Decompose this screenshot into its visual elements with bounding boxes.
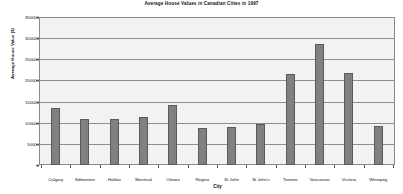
bar-slot bbox=[334, 17, 363, 165]
bar-slot bbox=[364, 17, 393, 165]
bar-slot bbox=[188, 17, 217, 165]
x-slot: Vancouver bbox=[305, 167, 334, 185]
x-axis-tick-label: Calgary bbox=[48, 177, 63, 182]
x-axis-tick-mark bbox=[334, 165, 335, 168]
y-axis-tick-label: 150000 bbox=[5, 99, 39, 104]
x-axis-tick-mark bbox=[246, 165, 247, 168]
x-slot: Regina bbox=[188, 167, 217, 185]
x-slot: Montreal bbox=[129, 167, 158, 185]
bar-slot bbox=[41, 17, 70, 165]
x-axis-tick-label: Winnipeg bbox=[369, 177, 387, 182]
y-axis-tick-mark bbox=[36, 165, 39, 166]
bar bbox=[80, 119, 89, 166]
bar-slot bbox=[100, 17, 129, 165]
bar-slot bbox=[217, 17, 246, 165]
x-axis-title: City bbox=[40, 184, 395, 189]
y-axis-tick-label: 200000 bbox=[5, 78, 39, 83]
y-axis-tick-label: 100000 bbox=[5, 120, 39, 125]
bar-chart: Average House Values in Canadian Cities … bbox=[0, 0, 403, 194]
x-axis-tick-mark bbox=[276, 165, 277, 168]
x-axis-tick-mark bbox=[217, 165, 218, 168]
x-axis-tick-label: Toronto bbox=[283, 177, 297, 182]
bar-slot bbox=[246, 17, 275, 165]
bar-slot bbox=[158, 17, 187, 165]
x-slot: Calgary bbox=[41, 167, 70, 185]
bar-slot bbox=[305, 17, 334, 165]
x-slot: St John bbox=[217, 167, 246, 185]
bar bbox=[256, 124, 265, 165]
x-axis-tick-label: St John's bbox=[252, 177, 270, 182]
x-axis-tick-mark bbox=[188, 165, 189, 168]
x-axis-tick-mark bbox=[129, 165, 130, 168]
bar-slot bbox=[276, 17, 305, 165]
bar bbox=[374, 126, 383, 165]
x-axis-tick-mark bbox=[70, 165, 71, 168]
x-slot: Halifax bbox=[100, 167, 129, 185]
x-slot: Winnipeg bbox=[364, 167, 393, 185]
bar bbox=[198, 128, 207, 165]
x-axis-tick-label: Halifax bbox=[108, 177, 121, 182]
bar bbox=[344, 73, 353, 165]
x-slot: Victoria bbox=[334, 167, 363, 185]
x-axis-tick-label: Montreal bbox=[135, 177, 152, 182]
x-axis-tick-mark bbox=[393, 165, 394, 168]
x-axis-tick-label: Vancouver bbox=[310, 177, 330, 182]
bar bbox=[286, 74, 295, 165]
x-axis-tick-mark bbox=[158, 165, 159, 168]
x-axis-tick-label: Edmonton bbox=[75, 177, 95, 182]
x-axis-tick-mark bbox=[100, 165, 101, 168]
x-axis-tick-mark bbox=[364, 165, 365, 168]
x-slot: Edmonton bbox=[70, 167, 99, 185]
x-axis-tick-mark bbox=[305, 165, 306, 168]
y-axis-tick-label: 350000 bbox=[5, 15, 39, 20]
x-axis-tick-label: Ottawa bbox=[166, 177, 180, 182]
bar-slot bbox=[70, 17, 99, 165]
x-slot: Toronto bbox=[276, 167, 305, 185]
bar bbox=[227, 127, 236, 165]
x-axis-tick-mark bbox=[41, 165, 42, 168]
x-axis-tick-label: Regina bbox=[195, 177, 209, 182]
x-axis-tick-group: CalgaryEdmontonHalifaxMontrealOttawaRegi… bbox=[39, 167, 395, 185]
bar bbox=[315, 44, 324, 165]
x-axis-tick-label: Victoria bbox=[342, 177, 356, 182]
y-axis-tick-label: 50000 bbox=[5, 141, 39, 146]
x-axis-tick-label: St John bbox=[224, 177, 239, 182]
bar bbox=[110, 119, 119, 166]
bar-series bbox=[39, 17, 395, 165]
y-axis-tick-label: 300000 bbox=[5, 36, 39, 41]
bar bbox=[51, 108, 60, 165]
bar bbox=[139, 117, 148, 165]
y-axis-tick-label: 0 bbox=[5, 163, 39, 168]
x-slot: St John's bbox=[246, 167, 275, 185]
y-axis-tick-label: 250000 bbox=[5, 57, 39, 62]
x-slot: Ottawa bbox=[158, 167, 187, 185]
chart-title: Average House Values in Canadian Cities … bbox=[0, 0, 403, 7]
bar bbox=[168, 105, 177, 165]
y-axis-tick-group: 3500003000002500002000001500001000005000… bbox=[0, 17, 39, 165]
bar-slot bbox=[129, 17, 158, 165]
